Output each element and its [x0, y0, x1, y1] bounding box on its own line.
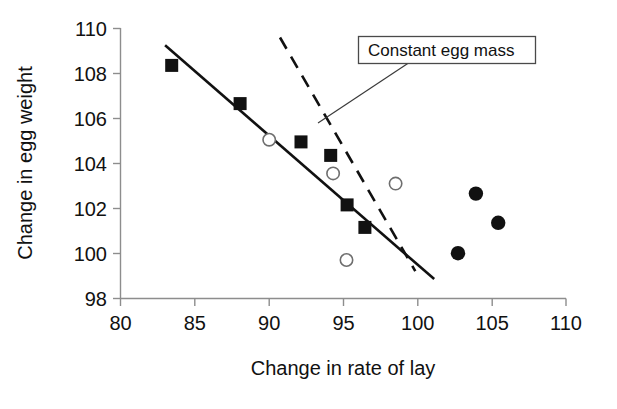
x-tick-label-85: 85 — [184, 312, 206, 334]
y-tick-label-102: 102 — [74, 198, 107, 220]
y-tick-label-106: 106 — [74, 108, 107, 130]
data-point-square — [234, 97, 247, 110]
chart-figure: 110 108 106 104 102 100 98 80 85 90 95 1… — [0, 0, 617, 409]
y-tick-label-110: 110 — [75, 18, 107, 40]
data-point-open-circle — [340, 254, 352, 266]
x-tick-label-90: 90 — [258, 312, 280, 334]
data-point-open-circle — [263, 134, 275, 146]
annotation-text: Constant egg mass — [368, 41, 514, 60]
data-point-open-circle — [327, 167, 339, 179]
x-tick-label-100: 100 — [401, 312, 434, 334]
data-point-square — [358, 221, 371, 234]
y-axis-ticks: 110 108 106 104 102 100 98 — [74, 18, 121, 310]
x-axis-ticks: 80 85 90 95 100 105 110 — [109, 299, 582, 335]
y-tick-label-100: 100 — [74, 243, 107, 265]
x-tick-label-110: 110 — [550, 312, 582, 334]
data-point-filled-circle — [469, 186, 483, 200]
constant-egg-mass-annotation: Constant egg mass — [318, 37, 536, 124]
regression-line — [165, 45, 434, 279]
data-point-square — [295, 135, 308, 148]
data-point-square — [341, 198, 354, 211]
data-point-square — [165, 59, 178, 72]
y-axis-title: Change in egg weight — [14, 66, 36, 260]
scatter-plot: 110 108 106 104 102 100 98 80 85 90 95 1… — [0, 0, 617, 409]
x-tick-label-80: 80 — [109, 312, 131, 334]
y-tick-label-104: 104 — [74, 153, 107, 175]
annotation-leader-line — [318, 62, 410, 123]
x-tick-label-105: 105 — [476, 312, 509, 334]
series-filled-circles — [451, 186, 506, 260]
data-point-filled-circle — [451, 246, 465, 260]
x-axis-title: Change in rate of lay — [251, 357, 436, 379]
y-tick-label-98: 98 — [85, 288, 107, 310]
data-point-square — [324, 149, 337, 162]
data-point-open-circle — [389, 177, 401, 189]
y-tick-label-108: 108 — [74, 63, 107, 85]
x-tick-label-95: 95 — [332, 312, 354, 334]
data-point-filled-circle — [491, 216, 505, 230]
